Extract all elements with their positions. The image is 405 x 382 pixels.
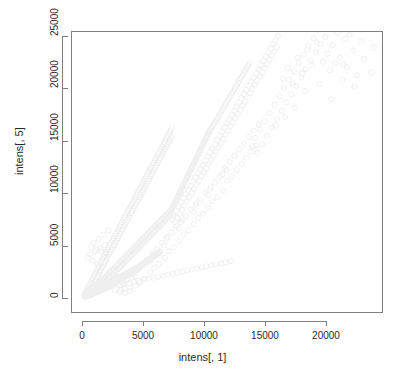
y-axis-title: intens[, 5] [14, 127, 25, 175]
y-tick [62, 88, 68, 89]
plot-panel [71, 31, 383, 313]
y-tick [62, 141, 68, 142]
x-tick-label: 5000 [132, 331, 154, 341]
y-tick [62, 36, 68, 37]
data-points-layer [72, 32, 382, 312]
scatter-points-svg [72, 32, 382, 312]
x-tick-label: 20000 [312, 331, 340, 341]
y-tick [62, 246, 68, 247]
x-tick-label: 10000 [190, 331, 218, 341]
x-axis-title: intens[, 1] [0, 352, 405, 363]
y-axis-line [62, 36, 63, 298]
x-tick-label: 15000 [251, 331, 279, 341]
x-tick-label: 0 [79, 331, 85, 341]
scatter-plot-figure: 05000100001500020000 0500010000150002000… [0, 0, 405, 382]
x-tick [82, 321, 83, 326]
x-tick [326, 321, 327, 326]
y-tick [62, 193, 68, 194]
x-tick [204, 321, 205, 326]
x-tick [265, 321, 266, 326]
y-tick [62, 298, 68, 299]
x-tick [143, 321, 144, 326]
